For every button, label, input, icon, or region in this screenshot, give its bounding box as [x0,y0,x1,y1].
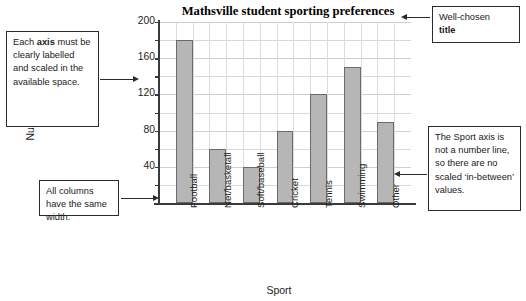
callout-columns-note: All columns have the same width. [39,180,119,216]
gridline-vertical [327,22,328,203]
gridline-vertical [293,22,294,203]
arrow-to-title [406,17,430,18]
y-tick-mark [155,113,159,114]
arrow-head-icon [401,14,407,20]
y-tick-mark [155,58,159,59]
callout-title-line1: Well-chosen [439,12,490,22]
callout-axis-note: Each axis must be clearly labelled and s… [6,31,99,127]
y-tick-label: 80 [125,124,155,135]
y-tick-mark [155,185,159,186]
y-tick-mark [155,40,159,41]
x-tick-label: Other [390,184,401,208]
y-tick-label: 40 [125,160,155,171]
y-tick-label: 160 [125,51,155,62]
y-tick-mark [155,22,159,23]
callout-title-note: Well-chosen title [432,6,520,43]
gridline-horizontal [159,22,411,23]
y-axis-ticks: 4080120160200 [123,22,155,203]
gridline-horizontal [159,40,411,41]
callout-title-line2: title [439,25,456,35]
y-tick-mark [155,149,159,150]
y-tick-mark [155,94,159,95]
arrow-head-icon [394,171,400,177]
chart-title: Mathsville student sporting preferences [163,4,413,19]
arrow-to-columns [121,198,154,199]
y-tick-mark [155,131,159,132]
gridline-horizontal [159,113,411,114]
callout-axis-text-a: Each [13,37,37,47]
callout-sport-axis-note: The Sport axis is not a number line, so … [428,126,521,211]
x-tick-label: Net/basketall [222,153,233,208]
x-tick-label: Soft/baseball [255,153,266,208]
x-tick-label: Cricket [289,178,300,208]
y-tick-label: 200 [125,15,155,26]
gridline-horizontal [159,94,411,95]
arrow-head-icon [153,195,159,201]
x-axis-label: Sport [219,284,339,296]
worksheet-page: Mathsville student sporting preferences … [0,0,526,301]
callout-sport-text: The Sport axis is not a number line, so … [435,132,514,195]
arrow-head-icon [133,76,139,82]
gridline-horizontal [159,76,411,77]
x-tick-label: Tennis [323,180,334,208]
y-tick-mark [155,203,159,204]
gridline-horizontal [159,58,411,59]
arrow-to-x-axis [399,174,427,175]
y-tick-mark [155,76,159,77]
y-tick-mark [155,167,159,168]
y-tick-label: 120 [125,87,155,98]
callout-axis-text-bold: axis [37,37,55,47]
x-tick-label: Football [188,174,199,208]
arrow-to-y-axis [100,79,134,80]
x-tick-label: Swimming [356,164,367,208]
